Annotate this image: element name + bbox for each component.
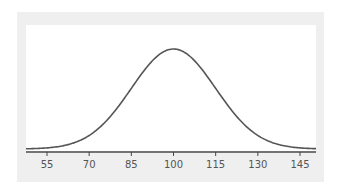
bell-curve-chart: 557085100115130145 bbox=[0, 0, 340, 189]
x-tick-label: 145 bbox=[290, 159, 309, 170]
x-tick-label: 115 bbox=[206, 159, 225, 170]
x-tick-label: 85 bbox=[125, 159, 138, 170]
x-tick-label: 55 bbox=[41, 159, 54, 170]
x-tick-label: 100 bbox=[164, 159, 183, 170]
x-tick-label: 130 bbox=[248, 159, 267, 170]
x-tick-label: 70 bbox=[83, 159, 96, 170]
distribution-curve bbox=[26, 49, 316, 149]
